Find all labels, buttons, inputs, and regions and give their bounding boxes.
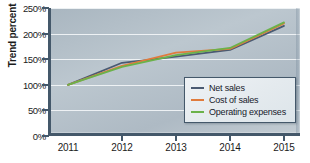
x-axis-tick-label: 2015 (259, 142, 309, 153)
chart-legend: Net salesCost of salesOperating expenses (184, 77, 296, 123)
x-axis-tick-label: 2011 (43, 142, 93, 153)
y-axis-tick-label: 0% (2, 131, 46, 142)
y-axis-tick-label: 250% (2, 3, 46, 14)
x-axis-tick-label: 2014 (205, 142, 255, 153)
y-axis-tick-mark (42, 135, 49, 137)
legend-label: Operating expenses (209, 107, 286, 117)
y-axis-tick-mark (42, 109, 49, 111)
legend-color-swatch (191, 111, 204, 113)
x-axis-tick-label: 2013 (151, 142, 201, 153)
x-axis-tick-label: 2012 (97, 142, 147, 153)
y-axis-tick-label: 100% (2, 79, 46, 90)
trend-percent-line-chart: Trend percent 0%50%100%150%200%250% 2011… (0, 0, 310, 163)
y-axis-tick-mark (42, 58, 49, 60)
y-axis-tick-mark (42, 33, 49, 35)
y-axis-tick-labels: 0%50%100%150%200%250% (0, 0, 46, 163)
legend-color-swatch (191, 87, 204, 89)
y-axis-tick-mark (42, 84, 49, 86)
series-line (68, 22, 284, 84)
y-axis-tick-label: 50% (2, 105, 46, 116)
x-axis-tick-mark (229, 134, 231, 141)
x-axis-tick-mark (121, 134, 123, 141)
x-axis-tick-mark (175, 134, 177, 141)
y-axis-tick-mark (42, 7, 49, 9)
legend-item[interactable]: Cost of sales (191, 94, 290, 106)
legend-label: Net sales (209, 83, 245, 93)
x-axis-tick-mark (283, 134, 285, 141)
legend-label: Cost of sales (209, 95, 258, 105)
series-line (68, 23, 284, 84)
legend-color-swatch (191, 99, 204, 101)
legend-item[interactable]: Net sales (191, 82, 290, 94)
legend-item[interactable]: Operating expenses (191, 106, 290, 118)
y-axis-tick-label: 150% (2, 54, 46, 65)
y-axis-tick-label: 200% (2, 28, 46, 39)
